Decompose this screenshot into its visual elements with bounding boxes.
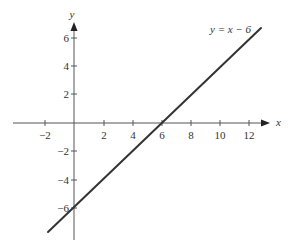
y-axis-arrow-icon [71, 22, 78, 31]
y-tick-label: −4 [57, 174, 69, 186]
x-axis-label: x [275, 116, 281, 128]
x-tick-label: 2 [101, 129, 107, 141]
y-tick-label: −2 [57, 145, 69, 157]
y-tick-label: 6 [64, 32, 70, 44]
x-tick-label: 8 [188, 129, 194, 141]
series-line-y-equals-x-minus-6 [48, 28, 261, 232]
y-axis: y 6 4 2 −2 −4 −6 [57, 8, 77, 240]
y-tick-label: 2 [64, 88, 70, 100]
x-tick-label: 12 [244, 129, 255, 141]
y-tick-label: 4 [64, 60, 70, 72]
y-axis-label: y [69, 8, 75, 20]
line-chart: x −2 2 4 6 8 10 12 y 6 4 [0, 0, 294, 248]
x-tick-label: −2 [39, 129, 51, 141]
equation-label: y = x − 6 [209, 23, 252, 35]
x-tick-label: 4 [130, 129, 136, 141]
x-tick-label: 6 [159, 129, 165, 141]
x-axis-arrow-icon [261, 120, 270, 127]
x-tick-label: 10 [215, 129, 227, 141]
